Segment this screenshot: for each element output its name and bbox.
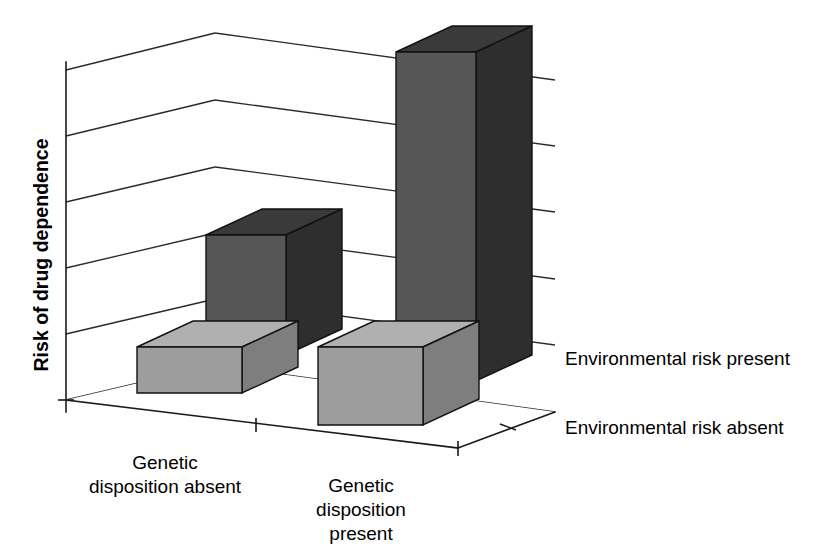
x-axis-label-genetic-absent-line-1: Genetic [132,452,197,473]
x-axis-label-genetic-absent: Genetic disposition absent [89,452,242,497]
bar-chart-3d: Risk of drug dependence Genetic disposit… [0,0,835,558]
x-axis-label-genetic-present: Genetic disposition present [316,475,406,544]
depth-axis-label-env-absent: Environmental risk absent [565,417,784,438]
x-axis-label-genetic-present-line-3: present [329,523,393,544]
depth-axis-label-env-present: Environmental risk present [565,348,791,369]
x-axis-label-genetic-present-line-1: Genetic [328,475,393,496]
chart-container: Risk of drug dependence Genetic disposit… [0,0,835,558]
bar-genetic-present-env-absent[interactable] [318,321,479,425]
y-axis-title: Risk of drug dependence [30,138,52,371]
x-axis-label-genetic-present-line-2: disposition [316,499,406,520]
x-axis-label-genetic-absent-line-2: disposition absent [89,476,242,497]
